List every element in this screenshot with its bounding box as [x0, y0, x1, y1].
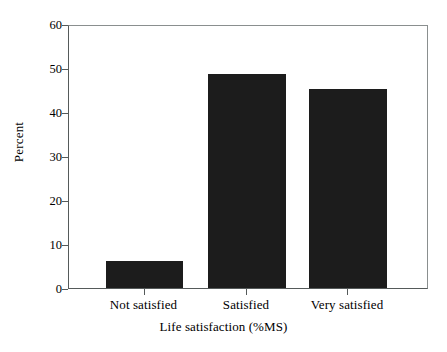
x-axis-tick-mark [347, 289, 348, 295]
bar [208, 74, 286, 288]
y-axis-tick-label: 50 [0, 63, 62, 75]
x-axis-title: Life satisfaction (%MS) [0, 319, 447, 335]
y-axis-tick-mark [62, 289, 68, 290]
y-axis-title: Percent [11, 97, 27, 187]
bar-chart-figure: 0102030405060 Not satisfiedSatisfiedVery… [0, 0, 447, 352]
x-axis-tick-mark [246, 289, 247, 295]
y-axis-tick-label: 30 [0, 151, 62, 163]
y-axis-tick-label: 40 [0, 107, 62, 119]
x-axis-tick-mark [144, 289, 145, 295]
bar [106, 261, 183, 288]
plot-area [68, 25, 428, 289]
x-axis-tick-label: Very satisfied [277, 297, 417, 312]
y-axis-tick-label: 60 [0, 19, 62, 31]
y-axis-tick-label: 20 [0, 195, 62, 207]
bar [309, 89, 387, 288]
y-axis-tick-label: 10 [0, 239, 62, 251]
y-axis-tick-label: 0 [0, 283, 62, 295]
